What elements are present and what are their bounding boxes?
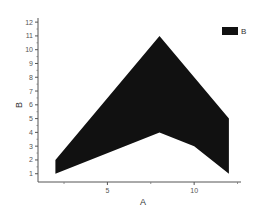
y-tick-label: 2	[29, 156, 33, 163]
y-tick-label: 10	[25, 46, 33, 53]
y-tick-label: 3	[29, 143, 33, 150]
y-ticks: 123456789101112	[25, 19, 38, 178]
y-tick-label: 1	[29, 170, 33, 177]
x-ticks: 510	[64, 182, 238, 194]
x-axis-label: A	[140, 197, 146, 207]
y-tick-label: 5	[29, 115, 33, 122]
legend-label-b: B	[241, 27, 246, 36]
legend-swatch-b	[222, 27, 238, 35]
y-tick-label: 7	[29, 88, 33, 95]
y-tick-label: 12	[25, 19, 33, 26]
chart: 123456789101112 510 A B B	[0, 0, 265, 216]
y-tick-label: 4	[29, 129, 33, 136]
area-polygon	[55, 36, 229, 174]
x-tick-label: 10	[190, 187, 198, 194]
y-tick-label: 9	[29, 60, 33, 67]
legend: B	[222, 27, 246, 36]
y-tick-label: 11	[26, 32, 33, 39]
y-tick-label: 6	[29, 101, 33, 108]
y-axis-label: B	[14, 102, 24, 108]
x-tick-label: 5	[105, 187, 109, 194]
y-tick-label: 8	[29, 74, 33, 81]
area-fill-b	[55, 36, 229, 174]
